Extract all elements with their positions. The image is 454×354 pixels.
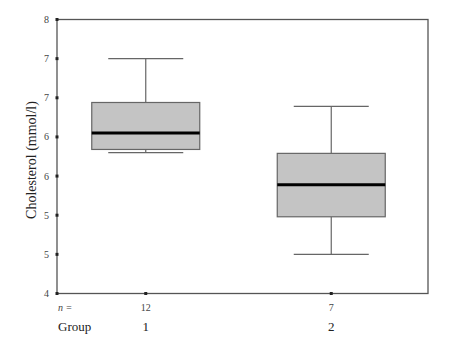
box-group-2: [277, 106, 385, 254]
y-tick-mark: [56, 18, 59, 21]
x-tick-mark: [330, 292, 333, 295]
y-tick-label: 5: [44, 249, 49, 260]
group-category-label: 2: [328, 319, 335, 334]
y-tick-label: 6: [44, 131, 49, 142]
y-tick-label: 4: [44, 288, 49, 299]
x-tick-mark: [144, 292, 147, 295]
y-tick-label: 6: [44, 171, 49, 182]
n-count-label: 12: [141, 302, 151, 313]
y-tick-label: 7: [44, 53, 49, 64]
group-prefix-label: Group: [58, 319, 91, 334]
y-tick-label: 8: [44, 14, 49, 25]
y-tick-mark: [56, 57, 59, 60]
y-tick-mark: [56, 214, 59, 217]
n-count-label: 7: [329, 302, 334, 313]
y-tick-label: 5: [44, 210, 49, 221]
boxplot-chart: 87766554 12172 Cholesterol (mmol/l) n = …: [0, 0, 454, 354]
y-tick-label: 7: [44, 92, 49, 103]
y-tick-mark: [56, 96, 59, 99]
n-prefix-label: n =: [58, 302, 72, 313]
y-tick-mark: [56, 135, 59, 138]
iqr-box: [92, 102, 200, 149]
y-axis-label: Cholesterol (mmol/l): [24, 101, 40, 219]
y-tick-mark: [56, 253, 59, 256]
y-tick-mark: [56, 292, 59, 295]
group-category-label: 1: [143, 319, 150, 334]
y-tick-mark: [56, 175, 59, 178]
box-group-1: [92, 59, 200, 153]
